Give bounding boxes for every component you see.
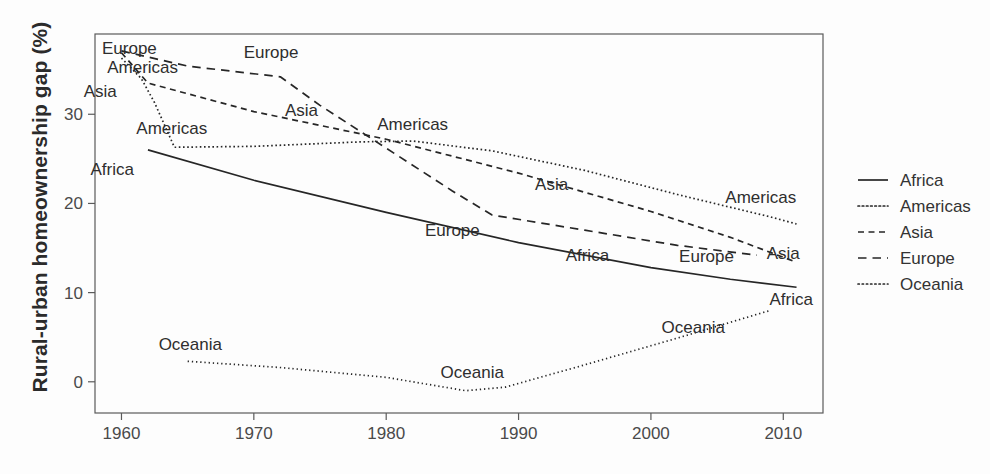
inline-label-oceania: Oceania	[441, 363, 505, 382]
inline-label-americas: Americas	[377, 115, 448, 134]
inline-label-europe: Europe	[244, 43, 299, 62]
legend-label-americas[interactable]: Americas	[900, 197, 971, 216]
x-axis-tick-label: 2000	[632, 424, 670, 443]
x-axis-tick-label: 1970	[235, 424, 273, 443]
legend-label-oceania[interactable]: Oceania	[900, 275, 964, 294]
inline-label-asia: Asia	[767, 244, 801, 263]
y-axis-tick-label: 0	[74, 373, 83, 392]
y-axis-tick-label: 20	[64, 194, 83, 213]
inline-label-oceania: Oceania	[662, 318, 726, 337]
line-chart-plot: 1960197019801990200020100102030 AfricaAf…	[0, 0, 990, 474]
legend[interactable]: AfricaAmericasAsiaEuropeOceania	[858, 171, 971, 294]
inline-label-americas: Americas	[107, 58, 178, 77]
chart-figure: Rural-urban homeownership gap (%) 196019…	[0, 0, 990, 474]
inline-label-europe: Europe	[102, 39, 157, 58]
series-line-africa	[148, 150, 797, 287]
inline-label-americas: Americas	[136, 119, 207, 138]
legend-label-africa[interactable]: Africa	[900, 171, 944, 190]
inline-label-oceania: Oceania	[159, 335, 223, 354]
legend-label-asia[interactable]: Asia	[900, 223, 934, 242]
y-axis-tick-label: 10	[64, 284, 83, 303]
inline-label-africa: Africa	[769, 290, 813, 309]
x-axis-tick-label: 1990	[500, 424, 538, 443]
inline-label-americas: Americas	[725, 188, 796, 207]
inline-series-labels-group: AfricaAfricaAfricaAmericasAmericasAmeric…	[84, 39, 814, 383]
x-axis-tick-label: 1960	[103, 424, 141, 443]
x-axis-tick-label: 2010	[764, 424, 802, 443]
inline-label-europe: Europe	[425, 221, 480, 240]
series-line-americas	[121, 58, 796, 224]
inline-label-africa: Africa	[90, 160, 134, 179]
legend-label-europe[interactable]: Europe	[900, 249, 955, 268]
inline-label-asia: Asia	[84, 82, 118, 101]
y-axis-tick-label: 30	[64, 105, 83, 124]
x-axis-tick-label: 1980	[367, 424, 405, 443]
inline-label-asia: Asia	[285, 101, 319, 120]
inline-label-africa: Africa	[566, 246, 610, 265]
inline-label-asia: Asia	[535, 175, 569, 194]
inline-label-europe: Europe	[679, 247, 734, 266]
